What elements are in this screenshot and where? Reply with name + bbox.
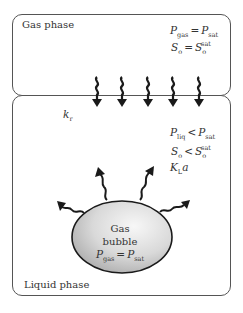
- mass-transfer-coefficient: KLa: [170, 162, 188, 176]
- rate-constant-label: kr: [63, 109, 72, 123]
- gas-concentration-equation: So=Sosat: [171, 41, 211, 55]
- gas-bubble-label: Gas bubble Pgas=Psat: [76, 222, 164, 266]
- liquid-phase-label: Liquid phase: [24, 280, 89, 290]
- bubble-line-2: bubble: [76, 235, 164, 248]
- liquid-pressure-equation: Pliq<Psat: [170, 127, 215, 141]
- gas-phase-label: Gas phase: [22, 20, 74, 30]
- liquid-concentration-equation: So<Sosat: [171, 145, 211, 159]
- bubble-pressure-equation: Pgas=Psat: [76, 248, 164, 266]
- bubble-line-1: Gas: [76, 222, 164, 235]
- gas-pressure-equation: Pgas=Psat: [170, 25, 218, 39]
